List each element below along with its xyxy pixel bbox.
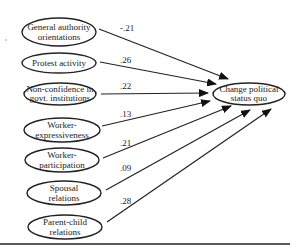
predictor-node-worker-participation: Worker- participation xyxy=(25,148,99,172)
svg-text:orientations: orientations xyxy=(38,32,81,42)
coef-parent-child-relations: .28 xyxy=(120,196,132,206)
predictor-node-protest-activity: Protest activity xyxy=(22,53,96,73)
arrow-parent-child-relations xyxy=(107,109,271,222)
target-node-change-political-status-quo: Change political status quo xyxy=(213,83,285,105)
svg-text:govt. institutions: govt. institutions xyxy=(30,93,91,103)
arrow-protest-activity xyxy=(100,62,216,84)
predictor-node-worker-expressiveness: Worker- expressiveness xyxy=(24,118,100,142)
arrow-spousal-relations xyxy=(106,110,250,190)
path-diagram: -.21 .26 .22 .13 .21 .09 .28 General aut… xyxy=(0,0,299,248)
coef-worker-expressiveness: .13 xyxy=(120,109,132,119)
svg-text:Worker-: Worker- xyxy=(47,150,77,160)
predictor-node-parent-child-relations: Parent-child relations xyxy=(28,215,102,239)
coef-protest-activity: .26 xyxy=(120,55,132,65)
svg-text:expressiveness: expressiveness xyxy=(35,130,89,140)
arrow-non-confidence xyxy=(101,93,208,94)
svg-text:relations: relations xyxy=(50,227,81,237)
arrow-worker-expressiveness xyxy=(102,101,210,126)
arrow-general-authority xyxy=(99,29,228,79)
speck-mark xyxy=(5,39,7,41)
predictor-node-general-authority: General authority orientations xyxy=(22,18,96,46)
svg-text:General authority: General authority xyxy=(27,22,91,32)
svg-text:Worker-: Worker- xyxy=(47,120,77,130)
coef-worker-participation: .21 xyxy=(120,138,131,148)
svg-text:participation: participation xyxy=(39,160,85,170)
svg-text:Parent-child: Parent-child xyxy=(43,217,87,227)
svg-text:status quo: status quo xyxy=(231,93,268,103)
svg-text:Spousal: Spousal xyxy=(50,183,79,193)
coef-general-authority: -.21 xyxy=(120,23,134,33)
svg-text:Protest activity: Protest activity xyxy=(32,58,87,68)
predictor-node-spousal-relations: Spousal relations xyxy=(27,181,101,205)
coef-spousal-relations: .09 xyxy=(120,163,132,173)
coef-non-confidence: .22 xyxy=(120,81,131,91)
predictor-node-non-confidence: Non-confidence in govt. institutions xyxy=(24,83,96,105)
svg-text:relations: relations xyxy=(49,193,80,203)
